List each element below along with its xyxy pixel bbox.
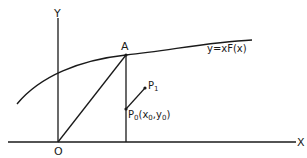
geometry-diagram: X Y O y=xF(x) A P1 P0(x0,y0) <box>0 0 307 158</box>
y-axis-label: Y <box>53 7 61 20</box>
point-p1 <box>143 86 146 89</box>
point-a-label: A <box>121 40 129 53</box>
point-p1-label: P1 <box>148 80 159 93</box>
curve-label: y=xF(x) <box>207 43 247 54</box>
point-p0-label: P0(x0,y0) <box>128 109 170 122</box>
point-a <box>125 54 128 57</box>
origin-label: O <box>54 145 63 158</box>
x-axis-label: X <box>297 136 305 149</box>
segment-p0-p1 <box>126 88 145 109</box>
